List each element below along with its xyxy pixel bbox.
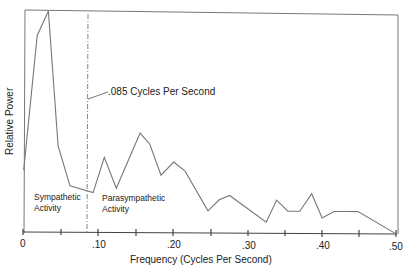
region-labels: Sympathetic Activity Parasympathetic Act… xyxy=(34,192,166,214)
x-axis xyxy=(23,229,397,237)
parasympathetic-label-2: Activity xyxy=(102,204,130,214)
tick-label-10: .10 xyxy=(92,239,106,250)
tick-label-30: .30 xyxy=(242,240,256,251)
frame-top xyxy=(25,10,398,15)
sympathetic-label-2: Activity xyxy=(34,203,62,213)
x-tick-labels: 0 .10 .20 .30 .40 .50 xyxy=(20,238,403,252)
y-axis-title: Relative Power xyxy=(4,87,15,155)
divider-line xyxy=(87,14,88,232)
divider-leader xyxy=(88,92,108,99)
parasympathetic-label-1: Parasympathetic xyxy=(102,193,166,203)
tick-label-40: .40 xyxy=(316,240,330,251)
y-axis xyxy=(24,10,25,233)
tick-label-0: 0 xyxy=(20,238,26,249)
chart: 0 .10 .20 .30 .40 .50 Frequency (Cycles … xyxy=(0,0,408,269)
x-axis-title: Frequency (Cycles Per Second) xyxy=(130,254,272,265)
sympathetic-label-1: Sympathetic xyxy=(34,192,82,202)
tick-label-50: .50 xyxy=(389,241,403,252)
tick-label-20: .20 xyxy=(167,239,181,250)
divider-label: .085 Cycles Per Second xyxy=(108,86,215,97)
